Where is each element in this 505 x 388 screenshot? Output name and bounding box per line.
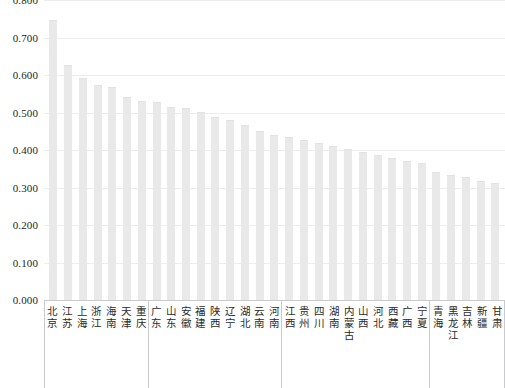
category-group: 青海黑龙江吉林新疆甘肃: [430, 301, 505, 388]
bar: [79, 78, 87, 300]
y-axis-tick-label: 0.300: [13, 182, 38, 194]
bar-slot: [179, 0, 194, 300]
category-label-table: 北京江苏上海浙江海南天津重庆广东山东安徽福建陕西辽宁湖北云南河南江西贵州四川湖南…: [44, 300, 505, 388]
bar-slot: [75, 0, 90, 300]
x-axis-category-label: 浙江: [89, 301, 104, 347]
x-axis-category-label: 甘肃: [489, 301, 504, 347]
bar-slot: [238, 0, 253, 300]
bar: [315, 143, 323, 300]
x-axis-category-label: 河南: [267, 301, 282, 347]
x-axis-category-label: 广西: [400, 301, 415, 347]
x-axis-category-label: 陕西: [208, 301, 223, 347]
bar-slot: [429, 0, 444, 300]
x-axis-category-label: 黑龙江: [445, 301, 460, 347]
bar-slot: [444, 0, 459, 300]
bar: [64, 65, 72, 301]
y-axis-tick-label: 0.700: [13, 32, 38, 44]
bar-slot: [149, 0, 164, 300]
x-axis-category-label: 宁夏: [415, 301, 430, 347]
bar: [374, 155, 382, 300]
x-axis-category-label: 西藏: [385, 301, 400, 347]
bar-slot: [414, 0, 429, 300]
category-group-title: [430, 347, 504, 388]
bar: [418, 163, 426, 300]
x-axis-category-label: 福建: [193, 301, 208, 347]
x-axis-category-label: 新疆: [475, 301, 490, 347]
y-axis-tick-label: 0.800: [13, 0, 38, 6]
bar-slot: [134, 0, 149, 300]
bar: [491, 183, 499, 300]
category-cells: 青海黑龙江吉林新疆甘肃: [430, 301, 504, 347]
bar-slot: [400, 0, 415, 300]
x-axis-category-label: 广东: [149, 301, 164, 347]
bar: [432, 172, 440, 300]
bar-slot: [488, 0, 503, 300]
bar: [197, 112, 205, 300]
x-axis-category-label: 贵州: [297, 301, 312, 347]
x-axis-category-label: 湖北: [237, 301, 252, 347]
category-group: 广东山东安徽福建陕西辽宁湖北云南河南: [149, 301, 282, 388]
category-cells: 广东山东安徽福建陕西辽宁湖北云南河南: [149, 301, 281, 347]
bar-slot: [164, 0, 179, 300]
x-axis-category-label: 云南: [252, 301, 267, 347]
bar-slot: [46, 0, 61, 300]
bar: [167, 107, 175, 300]
bar-slot: [61, 0, 76, 300]
bar-slot: [326, 0, 341, 300]
bars-layer: [44, 0, 505, 300]
bar: [108, 87, 116, 300]
x-axis-category-label: 海南: [104, 301, 119, 347]
bar: [447, 175, 455, 300]
bar: [477, 181, 485, 300]
bar-slot: [90, 0, 105, 300]
bar: [329, 146, 337, 300]
x-axis-category-label: 四川: [312, 301, 327, 347]
y-axis-tick-label: 0.500: [13, 107, 38, 119]
bar-slot: [355, 0, 370, 300]
bar-slot: [341, 0, 356, 300]
category-group: 北京江苏上海浙江海南天津重庆: [44, 301, 149, 388]
bar: [211, 117, 219, 300]
category-group-title: [45, 347, 148, 388]
bar-slot: [105, 0, 120, 300]
y-axis-tick-label: 0.100: [13, 257, 38, 269]
x-axis-category-label: 重庆: [133, 301, 148, 347]
bar-slot: [223, 0, 238, 300]
x-axis-category-label: 吉林: [460, 301, 475, 347]
y-axis-tick-label: 0.400: [13, 144, 38, 156]
bar: [344, 149, 352, 300]
bar: [359, 152, 367, 301]
category-cells: 江西贵州四川湖南内蒙古山西河北西藏广西宁夏: [282, 301, 429, 347]
bar: [256, 131, 264, 301]
category-group: 江西贵州四川湖南内蒙古山西河北西藏广西宁夏: [282, 301, 430, 388]
bar-slot: [385, 0, 400, 300]
x-axis-category-label: 山西: [356, 301, 371, 347]
bar-chart: 0.8000.7000.6000.5000.4000.3000.2000.100…: [0, 0, 505, 388]
y-axis-tick-label: 0.200: [13, 219, 38, 231]
x-axis-category-label: 河北: [371, 301, 386, 347]
bar-slot: [120, 0, 135, 300]
x-axis-category-label: 天津: [119, 301, 134, 347]
bar-slot: [252, 0, 267, 300]
category-group-title: [149, 347, 281, 388]
bar: [153, 102, 161, 300]
x-axis-category-label: 青海: [430, 301, 445, 347]
y-axis-tick-label: 0.000: [13, 294, 38, 306]
x-axis-category-label: 江苏: [60, 301, 75, 347]
x-axis-category-label: 安徽: [178, 301, 193, 347]
x-axis-category-label: 北京: [45, 301, 60, 347]
x-axis-category-label: 辽宁: [222, 301, 237, 347]
bar: [123, 97, 131, 300]
y-axis: 0.8000.7000.6000.5000.4000.3000.2000.100…: [0, 0, 44, 310]
bar: [462, 177, 470, 300]
bar-slot: [370, 0, 385, 300]
bar: [285, 137, 293, 300]
bar: [388, 158, 396, 300]
category-cells: 北京江苏上海浙江海南天津重庆: [45, 301, 148, 347]
bar: [182, 108, 190, 300]
x-axis-category-label: 内蒙古: [341, 301, 356, 347]
bar: [300, 140, 308, 300]
bar-slot: [267, 0, 282, 300]
bar-slot: [311, 0, 326, 300]
bar: [226, 120, 234, 300]
